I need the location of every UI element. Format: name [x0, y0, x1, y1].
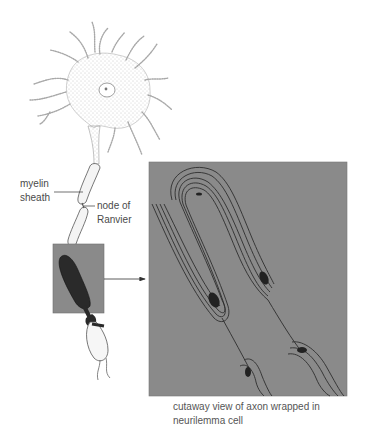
label-sheath: sheath — [20, 191, 50, 205]
label-node-of: node of — [97, 199, 130, 213]
myelin-segments — [68, 164, 100, 247]
nucleolus — [105, 88, 108, 91]
caption-line-2: neurilemma cell — [173, 414, 243, 428]
nucleus — [99, 83, 115, 97]
myelin-segment-lower — [87, 322, 108, 361]
label-myelin: myelin — [20, 177, 49, 191]
label-ranvier: Ranvier — [97, 213, 131, 227]
neuron-diagram — [0, 0, 365, 440]
caption-line-1: cutaway view of axon wrapped in — [173, 400, 320, 414]
axon-initial-segment — [88, 126, 100, 164]
